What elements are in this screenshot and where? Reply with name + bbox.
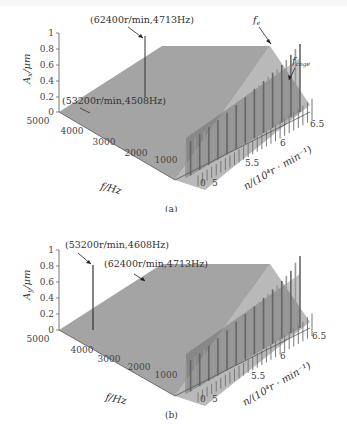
z-tick-1: 1 [48, 245, 54, 255]
z-tick-0.4: 0.4 [40, 76, 55, 86]
y-tick-5.5: 5.5 [245, 158, 260, 168]
x-tick-2000: 2000 [128, 362, 151, 372]
z-tick-1: 1 [48, 28, 54, 38]
z-tick-0.8: 0.8 [40, 44, 55, 54]
y-tick-5: 5 [212, 394, 218, 404]
waterfall-plot-a: 1 0.8 0.6 0.4 0.2 0 Ax/μm 5000 4000 3000… [0, 0, 347, 212]
y-tick-5.5: 5.5 [251, 371, 266, 381]
plot-a-svg: 1 0.8 0.6 0.4 0.2 0 Ax/μm 5000 4000 3000… [0, 0, 347, 212]
x-tick-5000: 5000 [27, 334, 50, 344]
caption-a: (a) [165, 204, 177, 212]
x-axis-label-b: f/Hz [104, 391, 129, 406]
z-axis-ticks [56, 250, 59, 330]
z-tick-0.2: 0.2 [40, 92, 54, 102]
x-tick-1000: 1000 [155, 370, 178, 380]
y-tick-6: 6 [280, 351, 286, 361]
annotation-peak-53200: (53200r/min,4608Hz) [65, 239, 169, 250]
x-tick-0: 0 [200, 178, 206, 188]
x-tick-4000: 4000 [71, 345, 94, 355]
x-tick-1000: 1000 [155, 155, 178, 165]
z-tick-0.6: 0.6 [40, 277, 55, 287]
waterfall-plot-b: 1 0.8 0.6 0.4 0.2 0 Ay/μm 5000 4000 3000… [0, 212, 347, 424]
z-tick-0.4: 0.4 [40, 293, 55, 303]
caption-b: (b) [165, 410, 178, 420]
annotation-peak-62400: (62400r/min,4713Hz) [104, 258, 208, 269]
fe-label: fe [252, 14, 261, 26]
x-tick-5000: 5000 [27, 116, 50, 126]
z-tick-0.6: 0.6 [40, 60, 55, 70]
z-tick-0.2: 0.2 [40, 309, 54, 319]
annotation-peak-62400: (62400r/min,4713Hz) [90, 14, 194, 25]
z-tick-0.8: 0.8 [40, 261, 55, 271]
y-tick-6.5: 6.5 [312, 331, 327, 341]
y-tick-6: 6 [280, 138, 286, 148]
z-axis-label-b: Ay/μm [21, 269, 34, 301]
x-tick-0: 0 [200, 394, 206, 404]
z-axis-label-a: Ax/μm [21, 53, 34, 85]
y-tick-5: 5 [212, 178, 218, 188]
annotation-peak-53200: (53200r/min,4508Hz) [62, 95, 166, 106]
y-tick-6.5: 6.5 [310, 119, 325, 129]
x-tick-4000: 4000 [61, 126, 84, 136]
x-tick-2000: 2000 [125, 148, 148, 158]
plot-b-svg: 1 0.8 0.6 0.4 0.2 0 Ay/μm 5000 4000 3000… [0, 212, 347, 424]
z-axis-ticks [56, 33, 59, 112]
x-tick-3000: 3000 [93, 137, 116, 147]
x-axis-label-a: f/Hz [99, 180, 124, 197]
x-tick-3000: 3000 [98, 354, 121, 364]
